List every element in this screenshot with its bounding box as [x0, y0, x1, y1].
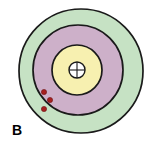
red-marker-dot — [41, 106, 46, 111]
panel-label: B — [12, 122, 22, 138]
figure-panel: B — [0, 0, 146, 151]
red-marker-dot — [47, 97, 52, 102]
red-marker-dot — [41, 89, 46, 94]
